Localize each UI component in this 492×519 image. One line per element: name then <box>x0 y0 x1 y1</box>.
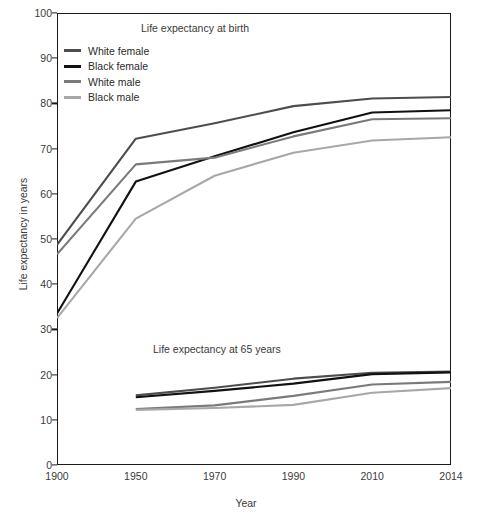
x-tick-label: 1970 <box>203 470 226 482</box>
y-tick-label: 10 <box>40 414 52 426</box>
x-tick-label: 2010 <box>361 470 384 482</box>
y-tick-mark <box>52 58 57 59</box>
y-tick-mark <box>52 12 57 13</box>
y-tick-label: 80 <box>40 97 52 109</box>
legend-swatch-icon <box>64 49 81 52</box>
legend-label: Black male <box>88 92 139 103</box>
x-tick-label: 1900 <box>45 470 68 482</box>
y-tick-mark <box>52 419 57 420</box>
chart-figure: 0102030405060708090100 Life expectancy i… <box>0 0 492 519</box>
y-tick-mark <box>52 103 57 104</box>
y-tick-label: 40 <box>40 278 52 290</box>
y-tick-mark <box>52 148 57 149</box>
legend-label: White male <box>88 77 141 88</box>
x-tick-label: 1990 <box>282 470 305 482</box>
y-tick-label: 20 <box>40 369 52 381</box>
y-tick-label: 60 <box>40 188 52 200</box>
legend-item: Black female <box>64 59 149 75</box>
y-tick-label: 70 <box>40 143 52 155</box>
legend-swatch-icon <box>64 80 81 83</box>
y-tick-label: 90 <box>40 52 52 64</box>
x-axis-title: Year <box>0 497 492 509</box>
y-axis-title: Life expectancy in years <box>17 154 29 314</box>
legend-label: Black female <box>88 61 148 72</box>
y-tick-mark <box>52 329 57 330</box>
legend: White femaleBlack femaleWhite maleBlack … <box>64 43 149 105</box>
y-tick-label: 100 <box>34 7 52 19</box>
y-tick-label: 30 <box>40 323 52 335</box>
annotation-birth: Life expectancy at birth <box>141 22 249 34</box>
legend-item: White female <box>64 43 149 59</box>
annotation-at-65: Life expectancy at 65 years <box>153 343 281 355</box>
y-tick-mark <box>52 374 57 375</box>
y-tick-mark <box>52 238 57 239</box>
series-line <box>136 372 451 397</box>
y-tick-mark <box>52 284 57 285</box>
legend-swatch-icon <box>64 96 81 99</box>
y-tick-mark <box>52 464 57 465</box>
legend-item: Black male <box>64 90 149 106</box>
x-tick-label: 2014 <box>439 470 462 482</box>
x-tick-label: 1950 <box>124 470 147 482</box>
y-tick-mark <box>52 193 57 194</box>
y-tick-label: 50 <box>40 233 52 245</box>
legend-label: White female <box>88 46 149 57</box>
legend-item: White male <box>64 74 149 90</box>
legend-swatch-icon <box>64 65 81 68</box>
